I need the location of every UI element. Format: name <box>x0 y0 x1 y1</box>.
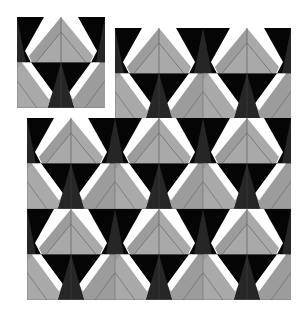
spike-tile <box>115 255 203 301</box>
small-panel-pattern <box>17 17 105 108</box>
spike-tile <box>27 255 115 301</box>
chevron-tile <box>203 118 291 164</box>
spike-tile <box>203 255 291 301</box>
small-panel <box>17 17 105 108</box>
spike-tile <box>203 74 291 120</box>
spike-tile <box>17 63 105 109</box>
chevron-tile <box>17 17 105 63</box>
spike-tile <box>115 164 203 210</box>
lower-panel <box>27 118 291 300</box>
upper-panel <box>115 28 291 119</box>
spike-tile <box>203 164 291 210</box>
spike-tile <box>115 74 203 120</box>
chevron-tile <box>115 28 203 74</box>
chevron-tile <box>203 209 291 255</box>
upper-panel-pattern <box>115 28 291 119</box>
chevron-tile <box>27 118 115 164</box>
chevron-tile <box>27 209 115 255</box>
chevron-tile <box>203 28 291 74</box>
lower-panel-pattern <box>27 118 291 300</box>
chevron-tile <box>115 209 203 255</box>
spike-tile <box>27 164 115 210</box>
chevron-tile <box>115 118 203 164</box>
